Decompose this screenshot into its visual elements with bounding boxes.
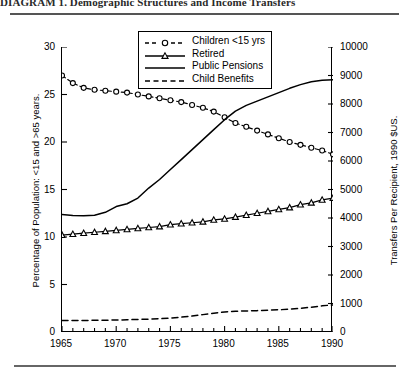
data-point-marker bbox=[167, 222, 173, 227]
data-point-marker bbox=[103, 88, 108, 93]
data-point-marker bbox=[308, 200, 314, 205]
chart-svg bbox=[62, 47, 333, 332]
legend-item-public-pensions: Public Pensions bbox=[144, 60, 265, 73]
legend-swatch-icon bbox=[144, 73, 186, 85]
data-point-marker bbox=[287, 140, 292, 145]
data-point-marker bbox=[178, 221, 184, 226]
data-point-marker bbox=[233, 121, 238, 126]
data-point-marker bbox=[135, 225, 141, 230]
data-point-marker bbox=[70, 231, 76, 236]
data-point-marker bbox=[276, 136, 281, 141]
y-axis-right-tick-label: 7000 bbox=[340, 127, 382, 138]
y-axis-right-tick-label: 8000 bbox=[340, 98, 382, 109]
chart-legend: Children <15 yrsRetiredPublic PensionsCh… bbox=[138, 31, 272, 89]
y-axis-right-tick-label: 9000 bbox=[340, 70, 382, 81]
data-point-marker bbox=[254, 210, 260, 215]
y-axis-right-tick-label: 4000 bbox=[340, 212, 382, 223]
data-point-marker bbox=[168, 98, 173, 103]
data-point-marker bbox=[309, 145, 314, 150]
data-point-marker bbox=[255, 128, 260, 133]
legend-swatch-icon bbox=[144, 35, 186, 47]
legend-item-label: Public Pensions bbox=[192, 60, 263, 72]
series-line-public-pensions bbox=[62, 80, 333, 216]
y-axis-right-tick-label: 2000 bbox=[340, 269, 382, 280]
x-axis-tick-label: 1985 bbox=[256, 338, 300, 349]
data-point-marker bbox=[92, 229, 98, 234]
data-point-marker bbox=[211, 217, 217, 222]
figure-title: DIAGRAM 1. Demographic Structures and In… bbox=[0, 0, 409, 8]
data-point-marker bbox=[125, 90, 130, 95]
legend-item-label: Children <15 yrs bbox=[192, 35, 265, 47]
data-point-marker bbox=[190, 102, 195, 107]
y-axis-right-tick-label: 3000 bbox=[340, 241, 382, 252]
data-point-marker bbox=[211, 109, 216, 114]
data-point-marker bbox=[81, 230, 87, 235]
data-point-marker bbox=[135, 92, 140, 97]
data-point-marker bbox=[222, 216, 228, 221]
data-point-marker bbox=[298, 142, 303, 147]
data-point-marker bbox=[233, 214, 239, 219]
data-point-marker bbox=[114, 89, 119, 94]
data-point-marker bbox=[320, 148, 325, 153]
data-point-marker bbox=[298, 202, 304, 207]
x-axis-tick-label: 1970 bbox=[93, 338, 137, 349]
y-axis-right-tick-label: 5000 bbox=[340, 184, 382, 195]
legend-item-label: Child Benefits bbox=[192, 73, 254, 85]
y-axis-right-tick-label: 6000 bbox=[340, 155, 382, 166]
legend-item-child-benefits: Child Benefits bbox=[144, 73, 265, 86]
top-divider bbox=[10, 13, 399, 15]
y-axis-right-tick-label: 1000 bbox=[340, 298, 382, 309]
data-point-marker bbox=[62, 73, 65, 78]
data-point-marker bbox=[319, 197, 325, 202]
data-point-marker bbox=[331, 152, 334, 157]
data-point-marker bbox=[102, 228, 108, 233]
series-line-retired bbox=[62, 198, 333, 235]
data-point-marker bbox=[276, 206, 282, 211]
data-point-marker bbox=[200, 219, 206, 224]
y-axis-right-tick-label: 10000 bbox=[340, 41, 382, 52]
data-point-marker bbox=[92, 87, 97, 92]
x-axis-tick-label: 1965 bbox=[39, 338, 83, 349]
data-point-marker bbox=[146, 224, 152, 229]
x-axis-tick-label: 1975 bbox=[147, 338, 191, 349]
data-point-marker bbox=[157, 223, 163, 228]
data-point-marker bbox=[244, 124, 249, 129]
data-point-marker bbox=[157, 96, 162, 101]
data-point-marker bbox=[70, 81, 75, 86]
data-point-marker bbox=[189, 220, 195, 225]
legend-item-retired: Retired bbox=[144, 48, 265, 61]
y-axis-left-title: Percentage of Population: <15 and >65 ye… bbox=[30, 76, 41, 306]
data-point-marker bbox=[113, 227, 119, 232]
series-line-child-benefits bbox=[62, 305, 333, 321]
data-point-marker bbox=[287, 204, 293, 209]
y-axis-right-title: Transfers Per Recipient, 1990 $US. bbox=[388, 76, 399, 306]
data-point-marker bbox=[124, 226, 130, 231]
x-axis-tick-label: 1980 bbox=[202, 338, 246, 349]
legend-swatch-icon bbox=[144, 60, 186, 72]
data-point-marker bbox=[146, 94, 151, 99]
legend-item-label: Retired bbox=[192, 48, 224, 60]
data-point-marker bbox=[265, 132, 270, 137]
data-point-marker bbox=[81, 85, 86, 90]
legend-swatch-icon bbox=[144, 48, 186, 60]
chart-plot-area bbox=[61, 47, 332, 332]
data-point-marker bbox=[330, 195, 333, 200]
y-axis-left-tick-label: 0 bbox=[21, 326, 55, 337]
data-point-marker bbox=[265, 208, 271, 213]
bottom-divider bbox=[14, 365, 396, 367]
data-point-marker bbox=[243, 212, 249, 217]
data-point-marker bbox=[200, 105, 205, 110]
y-axis-left-tick-label: 30 bbox=[21, 41, 55, 52]
x-axis-tick-label: 1990 bbox=[310, 338, 354, 349]
legend-item-children-15-yrs: Children <15 yrs bbox=[144, 35, 265, 48]
y-axis-right-tick-label: 0 bbox=[340, 326, 382, 337]
data-point-marker bbox=[179, 100, 184, 105]
